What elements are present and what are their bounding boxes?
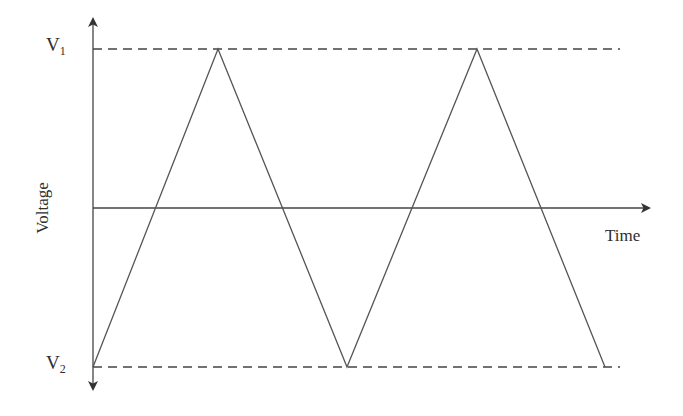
v2-label-subscript: 2 xyxy=(60,362,66,376)
y-axis-label: Voltage xyxy=(33,173,53,243)
v1-label-subscript: 1 xyxy=(60,44,66,58)
x-axis-label: Time xyxy=(605,226,640,246)
triangle-wave-diagram xyxy=(0,0,683,416)
v1-label: V1 xyxy=(46,34,66,59)
v1-label-main: V xyxy=(46,34,60,55)
v2-label-main: V xyxy=(46,352,60,373)
v2-label: V2 xyxy=(46,352,66,377)
